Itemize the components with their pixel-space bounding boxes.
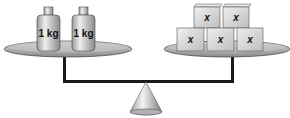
cube-label: x	[217, 34, 224, 45]
cube-x: x	[177, 28, 204, 51]
weight-1kg: 1 kg	[37, 7, 60, 51]
balance-scale-diagram: 1 kg 1 kg x x x x x	[0, 0, 290, 118]
cube-label: x	[232, 12, 239, 23]
cube-x: x	[223, 4, 251, 28]
beam	[63, 57, 234, 83]
weight-label: 1 kg	[38, 28, 58, 39]
cube-x: x	[237, 28, 263, 51]
weight-1kg: 1 kg	[72, 7, 95, 51]
fulcrum-cone	[130, 82, 162, 115]
weight-label: 1 kg	[73, 28, 93, 39]
cube-x: x	[194, 4, 222, 28]
cube-label: x	[203, 12, 210, 23]
left-pan	[4, 41, 132, 57]
cube-label: x	[246, 34, 253, 45]
cube-x: x	[207, 28, 234, 51]
cube-label: x	[187, 34, 194, 45]
